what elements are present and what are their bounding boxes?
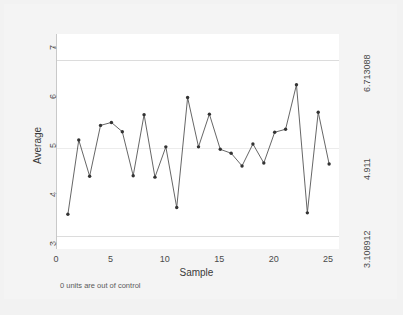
data-point — [240, 164, 243, 167]
data-point — [99, 124, 102, 127]
right-axis-ucl-label: 6.713088 — [362, 55, 372, 93]
data-point — [284, 128, 287, 131]
x-axis-tick-label: 15 — [207, 254, 231, 264]
data-point — [306, 211, 309, 214]
control-chart-page: 34567 Average 6.713088 4.911 3.108912 05… — [0, 0, 403, 315]
data-point — [153, 175, 156, 178]
data-point — [208, 112, 211, 115]
x-axis-tick-label: 5 — [98, 254, 122, 264]
data-point — [251, 142, 254, 145]
data-point — [66, 213, 69, 216]
data-point — [197, 145, 200, 148]
data-point — [327, 162, 330, 165]
average-series-line — [57, 34, 340, 249]
x-axis-tick-label: 25 — [316, 254, 340, 264]
data-point — [88, 174, 91, 177]
y-axis-tick-mark — [52, 46, 56, 47]
data-point — [317, 110, 320, 113]
chart-card: 34567 Average 6.713088 4.911 3.108912 05… — [4, 4, 397, 299]
data-point — [229, 152, 232, 155]
data-point — [131, 174, 134, 177]
data-point — [164, 145, 167, 148]
plot-area — [56, 34, 339, 249]
x-axis-tick-label: 10 — [153, 254, 177, 264]
data-point — [175, 206, 178, 209]
series-polyline — [68, 85, 329, 214]
data-point — [121, 130, 124, 133]
data-point — [219, 148, 222, 151]
out-of-control-note: 0 units are out of control — [60, 281, 140, 290]
y-axis-tick-mark — [52, 95, 56, 96]
data-point — [262, 161, 265, 164]
data-point — [186, 96, 189, 99]
y-axis-label: Average — [32, 126, 43, 163]
right-axis-lcl-label: 3.108912 — [362, 231, 372, 269]
y-axis-tick-mark — [52, 193, 56, 194]
x-axis-tick-label: 0 — [44, 254, 68, 264]
data-point — [110, 121, 113, 124]
x-axis-tick-label: 20 — [262, 254, 286, 264]
right-axis-center-label: 4.911 — [362, 158, 372, 180]
data-point — [142, 113, 145, 116]
x-axis-label: Sample — [180, 267, 214, 278]
data-point — [295, 83, 298, 86]
data-point — [77, 138, 80, 141]
data-point — [273, 131, 276, 134]
y-axis-tick-mark — [52, 144, 56, 145]
y-axis-tick-mark — [52, 242, 56, 243]
